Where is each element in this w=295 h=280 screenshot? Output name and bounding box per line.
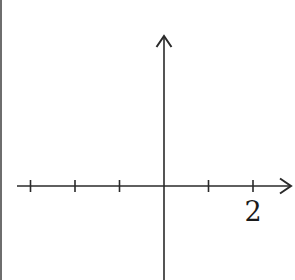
axes-figure [0, 0, 295, 280]
x-tick-label-2: 2 [244, 198, 261, 225]
coordinate-diagram: 2 [0, 0, 295, 280]
y-axis [157, 36, 172, 280]
x-axis [17, 179, 291, 194]
